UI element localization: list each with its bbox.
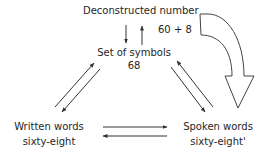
- number-representation-diagram: Deconstructed number 60 + 8 Set of symbo…: [0, 0, 267, 154]
- deconstructed-number-title: Deconstructed number: [83, 5, 199, 17]
- written-words-value: sixty-eight: [9, 136, 89, 148]
- curved-hollow-arrow-icon: [200, 14, 254, 108]
- written-words-title: Written words: [9, 121, 89, 133]
- arrow-symbols-to-written: [62, 69, 100, 112]
- arrow-written-to-symbols: [55, 63, 94, 107]
- spoken-words-title: Spoken words: [180, 121, 256, 133]
- set-of-symbols-value: 68: [96, 60, 172, 72]
- set-of-symbols-title: Set of symbols: [96, 47, 172, 59]
- arrow-spoken-to-symbols: [177, 61, 213, 107]
- spoken-words-value: sixty-eight': [180, 136, 256, 148]
- deconstructed-number-value: 60 + 8: [158, 24, 192, 36]
